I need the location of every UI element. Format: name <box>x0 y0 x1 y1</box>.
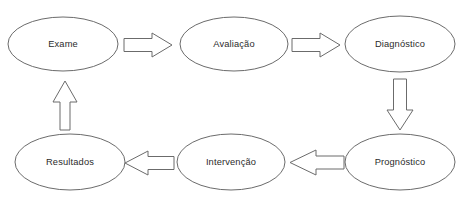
node-resultados[interactable]: Resultados <box>15 134 125 190</box>
node-label: Intervenção <box>206 157 256 167</box>
node-diagnostico[interactable]: Diagnóstico <box>345 16 455 72</box>
node-label: Avaliação <box>213 39 255 49</box>
arrow-diagnostico-to-prognostico <box>387 79 413 130</box>
flow-diagram-canvas: Exame Avaliação Diagnóstico Prognóstico … <box>0 0 465 208</box>
node-intervencao[interactable]: Intervenção <box>177 134 285 190</box>
arrow-resultados-to-exame <box>53 81 77 130</box>
node-exame[interactable]: Exame <box>8 17 118 71</box>
node-prognostico[interactable]: Prognóstico <box>345 134 455 190</box>
process-flow-diagram: Exame Avaliação Diagnóstico Prognóstico … <box>0 0 465 208</box>
node-label: Diagnóstico <box>375 39 425 49</box>
arrow-intervencao-to-resultados <box>125 151 174 175</box>
node-label: Prognóstico <box>375 157 426 167</box>
arrow-exame-to-avaliacao <box>124 33 172 57</box>
node-avaliacao[interactable]: Avaliação <box>180 17 288 71</box>
node-label: Exame <box>48 39 78 49</box>
arrow-prognostico-to-intervencao <box>290 150 344 175</box>
arrow-avaliacao-to-diagnostico <box>292 33 340 57</box>
node-label: Resultados <box>46 157 94 167</box>
